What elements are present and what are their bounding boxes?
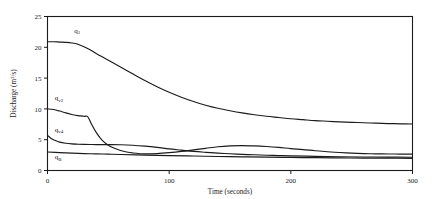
chart-figure: 05101520250100200300Time (seconds)Discha… <box>0 0 432 199</box>
curve-label-qv2: qv2 <box>55 94 64 103</box>
y-axis-tick-label: 0 <box>38 167 42 175</box>
x-axis-tick-label: 100 <box>164 177 175 185</box>
plot-frame <box>48 17 413 171</box>
curve-label-qv4: qv4 <box>55 126 64 135</box>
series-line-qv2 <box>48 109 413 154</box>
y-axis-tick-label: 20 <box>35 44 43 52</box>
discharge-time-line-chart: 05101520250100200300Time (seconds)Discha… <box>0 0 432 199</box>
y-axis-tick-label: 5 <box>38 136 42 144</box>
y-axis-tick-label: 25 <box>35 13 43 21</box>
curve-label-qB: qB <box>55 153 63 162</box>
x-axis-tick-label: 0 <box>46 177 50 185</box>
x-axis-title: Time (seconds) <box>208 188 253 196</box>
curve-label-q1: q1 <box>74 27 81 36</box>
x-axis-tick-label: 200 <box>286 177 297 185</box>
y-axis-tick-label: 15 <box>35 75 43 83</box>
y-axis-title: Discharge (m3/s) <box>10 69 18 118</box>
x-axis-tick-label: 300 <box>407 177 418 185</box>
y-axis-tick-label: 10 <box>35 106 43 114</box>
series-line-q1 <box>48 42 413 124</box>
